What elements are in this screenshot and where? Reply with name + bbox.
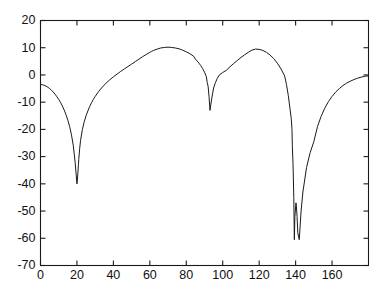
x-tick-label: 120 <box>249 268 270 282</box>
x-tick-label: 20 <box>70 268 84 282</box>
y-tick-label: 0 <box>29 68 36 82</box>
x-tick-label: 60 <box>143 268 157 282</box>
x-tick-label: 80 <box>179 268 193 282</box>
chart-canvas: 20100-10-20-30-40-50-60-70 0204060801001… <box>0 0 384 303</box>
y-axis-ticks <box>41 21 369 266</box>
data-series-line <box>41 47 369 239</box>
y-tick-label: -60 <box>17 231 35 245</box>
y-tick-label: -70 <box>17 258 35 272</box>
x-tick-label: 40 <box>106 268 120 282</box>
plot-frame <box>41 21 369 266</box>
axes-box <box>41 21 369 266</box>
pattern-curve <box>41 47 369 239</box>
x-tick-label: 140 <box>285 268 306 282</box>
x-tick-label: 0 <box>37 268 44 282</box>
y-axis-tick-labels: 20100-10-20-30-40-50-60-70 <box>17 13 35 272</box>
y-tick-label: -10 <box>17 95 35 109</box>
x-axis-ticks <box>41 21 333 266</box>
y-tick-label: 10 <box>22 41 36 55</box>
x-tick-label: 100 <box>212 268 233 282</box>
y-tick-label: -30 <box>17 149 35 163</box>
x-tick-label: 160 <box>322 268 343 282</box>
x-axis-tick-labels: 020406080100120140160 <box>37 268 343 282</box>
y-tick-label: 20 <box>22 13 36 27</box>
y-tick-label: -20 <box>17 122 35 136</box>
y-tick-label: -40 <box>17 177 35 191</box>
y-tick-label: -50 <box>17 204 35 218</box>
chart-figure: 20100-10-20-30-40-50-60-70 0204060801001… <box>0 0 384 303</box>
